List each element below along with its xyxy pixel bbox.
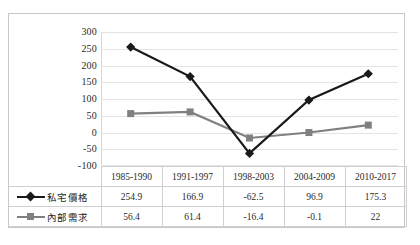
y-tick-label: -50: [41, 144, 97, 154]
table-cell: 56.4: [101, 207, 162, 227]
data-point-marker: [305, 129, 312, 136]
series-plot: [101, 32, 398, 166]
data-point-marker: [364, 69, 373, 78]
data-point-marker: [126, 43, 135, 52]
table-corner-cell: [9, 167, 101, 187]
chart-container: 300 250 200 150 100 50 0 -50 -100: [8, 13, 405, 228]
data-point-marker: [127, 110, 134, 117]
y-tick-label: 0: [41, 128, 97, 138]
table-column-header: 1985-1990: [101, 167, 162, 187]
y-axis-tick-labels: 300 250 200 150 100 50 0 -50 -100: [35, 32, 97, 166]
chart-data-table: 1985-1990 1991-1997 1998-2003 2004-2009 …: [9, 166, 407, 227]
legend-key-square-icon: [17, 211, 45, 222]
table-cell: 96.9: [284, 187, 345, 207]
table-cell: 61.4: [162, 207, 223, 227]
y-tick-label: 150: [41, 77, 97, 87]
table-cell: 166.9: [162, 187, 223, 207]
legend-cell-internal-demand: 內部需求: [9, 207, 101, 227]
plot-region: 300 250 200 150 100 50 0 -50 -100: [9, 14, 406, 166]
legend-cell-private-housing-price: 私宅價格: [9, 187, 101, 207]
table-row: 私宅價格 254.9 166.9 -62.5 96.9 175.3: [9, 187, 406, 207]
y-tick-label: 200: [41, 61, 97, 71]
table-cell: 175.3: [345, 187, 406, 207]
table-column-header: 2004-2009: [284, 167, 345, 187]
table-cell: -0.1: [284, 207, 345, 227]
legend-key-diamond-icon: [17, 191, 45, 202]
y-tick-label: 300: [41, 27, 97, 37]
data-point-marker: [365, 122, 372, 129]
y-tick-label: 250: [41, 44, 97, 54]
plot-area: [101, 32, 398, 166]
table-header-row: 1985-1990 1991-1997 1998-2003 2004-2009 …: [9, 167, 406, 187]
table-cell: 254.9: [101, 187, 162, 207]
legend-label: 私宅價格: [47, 190, 88, 204]
table-column-header: 2010-2017: [345, 167, 406, 187]
data-point-marker: [246, 134, 253, 141]
table-column-header: 1998-2003: [223, 167, 284, 187]
table-cell: 22: [345, 207, 406, 227]
table-cell: -16.4: [223, 207, 284, 227]
table-column-header: 1991-1997: [162, 167, 223, 187]
y-tick-label: 50: [41, 111, 97, 121]
legend-label: 內部需求: [47, 210, 88, 224]
series-line-internal-demand: [131, 112, 369, 138]
data-point-marker: [187, 108, 194, 115]
y-tick-label: 100: [41, 94, 97, 104]
table-row: 內部需求 56.4 61.4 -16.4 -0.1 22: [9, 207, 406, 227]
table-cell: -62.5: [223, 187, 284, 207]
